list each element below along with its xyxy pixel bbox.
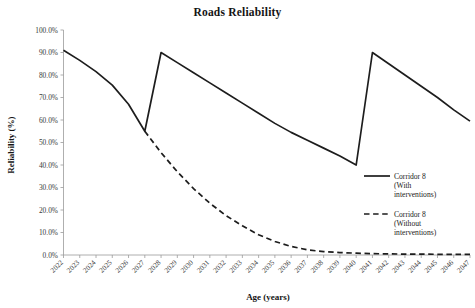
x-tick-label: 2024 [82,258,98,274]
x-tick-label: 2029 [163,258,179,274]
legend-entry-0-line-1: (With [394,181,412,190]
legend-entry-1-line-1: (Without [394,219,422,228]
x-tick-label: 2040 [342,258,358,274]
y-axis-tick-marks [61,30,64,255]
x-tick-label: 2036 [277,258,293,274]
chart-legend: Corridor 8 (With interventions) Corridor… [364,172,437,237]
x-tick-label: 2046 [439,258,455,274]
y-tick-label: 70.0% [39,93,58,102]
x-tick-label: 2035 [260,258,276,274]
chart-container: Roads Reliability 0.0%10.0%20.0%30.0%40.… [0,0,475,308]
y-tick-label: 0.0% [43,251,58,260]
x-tick-label: 2022 [49,258,65,274]
chart-plot-area: 0.0%10.0%20.0%30.0%40.0%50.0%60.0%70.0%8… [0,0,475,308]
x-tick-label: 2027 [130,258,146,274]
y-tick-label: 90.0% [39,48,58,57]
x-axis-title: Age (years) [246,292,290,302]
y-tick-label: 20.0% [39,206,58,215]
series-line-with-interventions [64,50,471,165]
y-tick-label: 80.0% [39,71,58,80]
x-tick-label: 2032 [212,258,228,274]
legend-entry-0-line-2: interventions) [394,190,437,199]
x-tick-label: 2025 [98,258,114,274]
x-tick-label: 2039 [326,258,342,274]
x-tick-label: 2033 [228,258,244,274]
y-tick-label: 100.0% [35,26,58,35]
y-tick-label: 30.0% [39,183,58,192]
x-tick-label: 2038 [309,258,325,274]
x-tick-label: 2045 [423,258,439,274]
legend-entry-0-line-0: Corridor 8 [394,172,426,181]
x-axis-tick-marks [64,255,471,258]
y-axis-title: Reliability (%) [6,116,16,173]
x-axis-tick-labels: 2022202320242025202620272028202920302031… [49,258,472,274]
y-axis-tick-labels: 0.0%10.0%20.0%30.0%40.0%50.0%60.0%70.0%8… [35,26,58,260]
x-tick-label: 2034 [244,258,260,274]
x-tick-label: 2037 [293,258,309,274]
x-tick-label: 2026 [114,258,130,274]
x-tick-label: 2030 [179,258,195,274]
x-tick-label: 2043 [391,258,407,274]
x-tick-label: 2041 [358,258,374,274]
x-tick-label: 2028 [147,258,163,274]
y-tick-label: 10.0% [39,228,58,237]
x-tick-label: 2023 [65,258,81,274]
x-tick-label: 2042 [374,258,390,274]
x-tick-label: 2044 [407,258,423,274]
legend-entry-1-line-0: Corridor 8 [394,210,426,219]
y-tick-label: 50.0% [39,138,58,147]
x-tick-label: 2047 [456,258,472,274]
legend-entry-1-line-2: interventions) [394,228,437,237]
x-tick-label: 2031 [195,258,211,274]
y-tick-label: 40.0% [39,161,58,170]
y-tick-label: 60.0% [39,116,58,125]
